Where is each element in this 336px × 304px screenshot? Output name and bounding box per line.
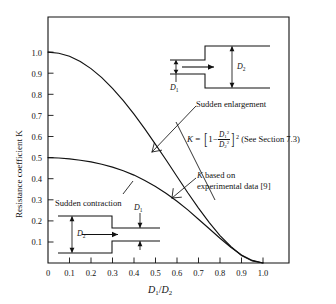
- y-tick-label: 0.7: [20, 111, 42, 121]
- y-tick-label: 1.0: [20, 48, 42, 58]
- equation-outer-exponent: 2: [236, 134, 239, 140]
- diagram-label-d1-contraction: D1: [134, 203, 143, 213]
- x-tick-label: 0.3: [102, 268, 124, 278]
- equation-num-sup: 2: [227, 130, 230, 135]
- figure-sudden-expansion-contraction: 1.0 0.9 0.8 0.7 0.6 0.5 0.4 0.3 0.2 0.1 …: [0, 0, 336, 304]
- bracket-right-icon: ]: [231, 133, 234, 147]
- dimension-d2-contraction: [70, 216, 75, 253]
- leader-line-sudden-contraction: [123, 181, 133, 194]
- annotation-sudden-enlargement: Sudden enlargement: [196, 99, 266, 109]
- equation-lhs: K: [187, 134, 193, 144]
- x-tick-label: 0.9: [231, 268, 253, 278]
- y-tick-label: 0.1: [20, 237, 42, 247]
- experimental-text-rest: based on: [203, 170, 235, 180]
- diagram-label-d1-enlargement: D1: [170, 83, 179, 93]
- diagram-sudden-enlargement: [170, 46, 270, 88]
- x-tick-label: 0.1: [59, 268, 81, 278]
- annotation-sudden-contraction: Sudden contraction: [55, 198, 122, 208]
- x-tick-label: 0.5: [145, 268, 167, 278]
- y-axis-label: Resistance coefficient K: [14, 130, 24, 218]
- chart-canvas: [0, 0, 336, 304]
- equation-section-reference: (See Section 7.3): [241, 134, 300, 144]
- dimension-d2-enlargement: [230, 46, 235, 88]
- x-tick-label: 1.0: [252, 268, 274, 278]
- x-tick-label: 0.7: [188, 268, 210, 278]
- annotation-experimental-line1: K based on: [197, 170, 235, 180]
- y-tick-label: 0.9: [20, 69, 42, 79]
- equation-den-sup: 2: [227, 140, 230, 145]
- bracket-left-icon: [: [204, 133, 207, 147]
- x-tick-label: 0.8: [209, 268, 231, 278]
- x-tick-label: 0.2: [80, 268, 102, 278]
- annotation-experimental-line2: experimental data [9]: [197, 181, 271, 191]
- x-tick-label: 0: [37, 268, 59, 278]
- y-tick-label: 0.8: [20, 90, 42, 100]
- annotation-equation: K = [1−D12D22]2 (See Section 7.3): [187, 130, 300, 149]
- diagram-label-d2-enlargement: D2: [237, 62, 246, 72]
- diagram-sudden-contraction: [58, 213, 160, 253]
- equation-equals: =: [195, 134, 200, 144]
- equation-fraction: D12D22: [218, 130, 230, 149]
- dimension-d1-enlargement: [174, 60, 179, 82]
- x-axis-ticks: [70, 258, 264, 264]
- x-axis-label: D1/D2: [148, 284, 172, 296]
- diagram-label-d2-contraction: D2: [77, 229, 86, 239]
- x-tick-label: 0.6: [166, 268, 188, 278]
- leader-arrow-experimental: [172, 178, 196, 198]
- x-tick-label: 0.4: [123, 268, 145, 278]
- dimension-d1-contraction: [138, 213, 143, 250]
- y-axis-ticks: [48, 52, 54, 242]
